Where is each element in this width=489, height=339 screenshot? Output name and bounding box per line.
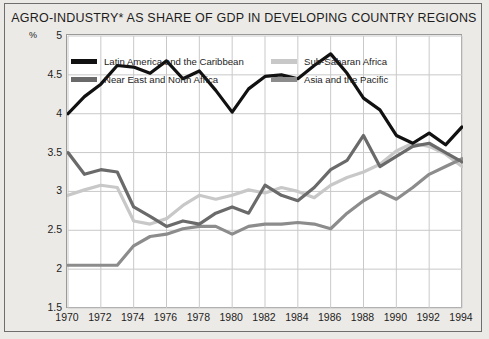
legend-item[interactable]: Near East and North Africa <box>71 70 244 88</box>
chart-title: AGRO-INDUSTRY* AS SHARE OF GDP IN DEVELO… <box>5 11 483 25</box>
legend-label: Asia and the Pacific <box>304 74 388 85</box>
x-tick-label: 1986 <box>318 311 341 323</box>
y-tick-label: 4 <box>56 107 62 119</box>
plot-area-wrapper: Latin America and the CaribbeanNear East… <box>66 34 462 308</box>
legend-swatch-icon <box>71 77 97 82</box>
chart-frame: AGRO-INDUSTRY* AS SHARE OF GDP IN DEVELO… <box>4 3 482 332</box>
y-tick-label: 3 <box>56 184 62 196</box>
y-axis-ticks: 1.522.533.544.55 <box>5 34 62 308</box>
x-axis-ticks: 1970197219741976197819801982198419861988… <box>66 311 462 327</box>
y-tick-label: 2 <box>56 262 62 274</box>
legend-label: Latin America and the Caribbean <box>104 56 244 67</box>
x-tick-label: 1974 <box>121 311 144 323</box>
legend-swatch-icon <box>271 59 297 64</box>
x-tick-label: 1970 <box>55 311 78 323</box>
y-tick-label: 2.5 <box>47 223 62 235</box>
legend-column: Latin America and the CaribbeanNear East… <box>71 52 244 88</box>
y-tick-label: 3.5 <box>47 146 62 158</box>
x-tick-label: 1990 <box>384 311 407 323</box>
x-tick-label: 1982 <box>252 311 275 323</box>
x-tick-label: 1978 <box>187 311 210 323</box>
legend-swatch-icon <box>271 77 297 82</box>
y-tick-label: 4.5 <box>47 68 62 80</box>
legend-item[interactable]: Sub-Saharan Africa <box>271 52 388 70</box>
legend-label: Sub-Saharan Africa <box>304 56 387 67</box>
chart-legend: Latin America and the CaribbeanNear East… <box>71 52 451 88</box>
legend-label: Near East and North Africa <box>104 74 218 85</box>
x-tick-label: 1984 <box>285 311 308 323</box>
y-tick-label: 5 <box>56 29 62 41</box>
x-tick-label: 1976 <box>154 311 177 323</box>
x-tick-label: 1980 <box>219 311 242 323</box>
x-tick-label: 1972 <box>88 311 111 323</box>
x-tick-label: 1988 <box>351 311 374 323</box>
legend-column: Sub-Saharan AfricaAsia and the Pacific <box>271 52 388 88</box>
legend-swatch-icon <box>71 59 97 64</box>
legend-item[interactable]: Latin America and the Caribbean <box>71 52 244 70</box>
legend-item[interactable]: Asia and the Pacific <box>271 70 388 88</box>
plot-area: Latin America and the CaribbeanNear East… <box>66 34 462 308</box>
x-tick-label: 1994 <box>449 311 472 323</box>
x-tick-label: 1992 <box>416 311 439 323</box>
